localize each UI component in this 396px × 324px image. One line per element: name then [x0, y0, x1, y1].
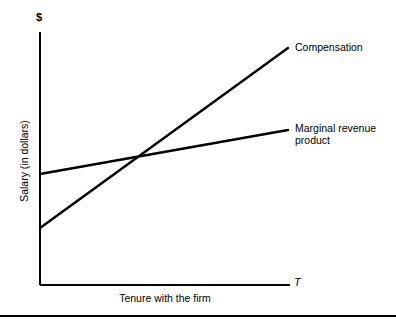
x-axis-symbol: T: [294, 277, 301, 288]
chart-figure: $ T Salary (in dollars) Tenure with the …: [0, 0, 396, 324]
series-label-marginal-revenue-product: Marginal revenue product: [295, 122, 376, 146]
bottom-divider: [0, 315, 396, 317]
y-axis-symbol: $: [36, 12, 42, 23]
series-label-compensation: Compensation: [295, 41, 363, 53]
y-axis-title: Salary (in dollars): [18, 91, 30, 231]
x-axis-title: Tenure with the firm: [60, 292, 270, 304]
series-line-compensation: [40, 48, 288, 228]
